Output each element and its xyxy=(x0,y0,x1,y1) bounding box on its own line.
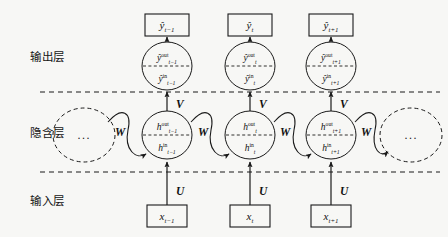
recurrent-arrow-left-entry xyxy=(108,113,146,156)
ellipsis-node-right: ... xyxy=(380,108,442,162)
diagram-canvas: ... ... xt−1 houtt−1 hint−1 xyxy=(0,0,448,237)
weight-label-u-t-plus-1: U xyxy=(340,185,349,197)
timestep-column-t: xt houtt hint ŷoutt ŷint ŷt xyxy=(225,14,275,227)
ellipsis-left-label: ... xyxy=(77,129,91,142)
weight-label-u-t: U xyxy=(259,185,268,197)
timestep-column-t-plus-1: xt+1 houtt+1 hint+1 ŷoutt+1 ŷint+1 ŷt+1 xyxy=(306,14,356,227)
weight-label-v-t-plus-1: V xyxy=(340,98,349,110)
weight-label-w-left: W xyxy=(115,126,126,138)
rnn-architecture-diagram: 输出层 隐含层 输入层 ... ... xyxy=(0,0,448,237)
weight-label-v-t: V xyxy=(259,98,268,110)
recurrent-arrow-right-exit xyxy=(355,113,388,154)
weight-label-w-2: W xyxy=(280,126,291,138)
weight-label-v-t-minus-1: V xyxy=(176,98,185,110)
weight-label-w-right: W xyxy=(361,126,372,138)
recurrent-arrow-t-minus-1-to-t xyxy=(191,113,229,156)
ellipsis-right-label: ... xyxy=(404,129,418,142)
ellipsis-node-left: ... xyxy=(53,108,115,162)
weight-label-u-t-minus-1: U xyxy=(176,185,185,197)
timestep-column-t-minus-1: xt−1 houtt−1 hint−1 ŷoutt−1 ŷint−1 ŷt−1 xyxy=(142,14,192,227)
weight-label-w-1: W xyxy=(198,126,209,138)
